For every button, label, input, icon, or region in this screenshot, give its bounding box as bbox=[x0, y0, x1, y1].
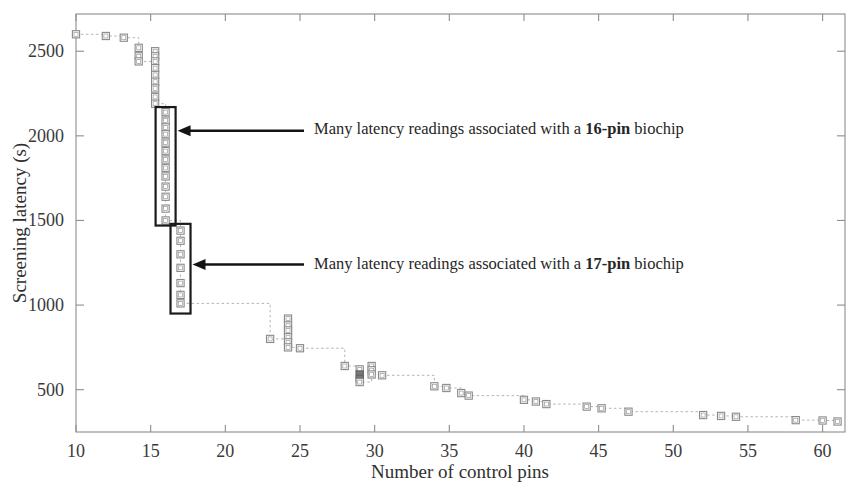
data-point bbox=[162, 109, 169, 116]
data-point bbox=[162, 173, 169, 180]
data-point bbox=[102, 32, 109, 39]
data-point bbox=[177, 237, 184, 244]
arrow-head-annot-16-pin bbox=[178, 125, 191, 136]
data-point bbox=[152, 71, 159, 78]
data-point bbox=[431, 383, 438, 390]
scatter-plot-svg: 1015202530354045505560 50010001500200025… bbox=[0, 0, 852, 489]
data-point bbox=[135, 44, 142, 51]
x-tick-label: 20 bbox=[216, 441, 234, 461]
data-point bbox=[162, 193, 169, 200]
x-tick-label: 50 bbox=[664, 441, 682, 461]
data-point bbox=[284, 327, 291, 334]
data-point bbox=[296, 345, 303, 352]
data-point bbox=[284, 344, 291, 351]
x-tick-label: 35 bbox=[440, 441, 458, 461]
data-point bbox=[341, 362, 348, 369]
y-axis-tick-labels: 5001000150020002500 bbox=[28, 41, 64, 399]
y-tick-label: 2000 bbox=[28, 126, 64, 146]
annotation-label-16-pin: Many latency readings associated with a … bbox=[314, 119, 684, 138]
x-tick-label: 25 bbox=[291, 441, 309, 461]
data-point bbox=[583, 403, 590, 410]
data-point bbox=[379, 372, 386, 379]
y-tick-label: 500 bbox=[37, 380, 64, 400]
data-point bbox=[177, 300, 184, 307]
data-point bbox=[458, 389, 465, 396]
annotation-arrows bbox=[178, 125, 304, 270]
data-point bbox=[732, 413, 739, 420]
data-point bbox=[162, 156, 169, 163]
data-point bbox=[443, 384, 450, 391]
x-tick-label: 45 bbox=[590, 441, 608, 461]
data-point bbox=[162, 117, 169, 124]
x-tick-label: 15 bbox=[142, 441, 160, 461]
data-point bbox=[152, 85, 159, 92]
data-point bbox=[120, 34, 127, 41]
data-point bbox=[177, 291, 184, 298]
data-point bbox=[177, 251, 184, 258]
data-point bbox=[819, 417, 826, 424]
x-tick-label: 40 bbox=[515, 441, 533, 461]
y-axis-title: Screening latency (s) bbox=[9, 143, 31, 303]
x-tick-label: 55 bbox=[739, 441, 757, 461]
data-point bbox=[162, 139, 169, 146]
data-point bbox=[465, 392, 472, 399]
y-tick-label: 1500 bbox=[28, 210, 64, 230]
data-point bbox=[152, 58, 159, 65]
data-point bbox=[717, 412, 724, 419]
data-point bbox=[284, 315, 291, 322]
data-point bbox=[177, 264, 184, 271]
annotation-label-17-pin: Many latency readings associated with a … bbox=[314, 254, 684, 273]
data-point bbox=[152, 93, 159, 100]
data-point bbox=[162, 217, 169, 224]
data-point bbox=[162, 124, 169, 131]
data-point bbox=[162, 205, 169, 212]
y-tick-label: 2500 bbox=[28, 41, 64, 61]
data-point bbox=[543, 400, 550, 407]
x-axis-tick-labels: 1015202530354045505560 bbox=[67, 441, 832, 461]
chart-figure: 1015202530354045505560 50010001500200025… bbox=[0, 0, 852, 489]
annotation-highlight-boxes bbox=[156, 107, 191, 313]
data-point bbox=[177, 279, 184, 286]
series-data-markers bbox=[72, 31, 841, 425]
data-point bbox=[368, 371, 375, 378]
data-point bbox=[162, 183, 169, 190]
data-point bbox=[162, 147, 169, 154]
y-axis-ticks bbox=[76, 51, 845, 389]
x-tick-label: 10 bbox=[67, 441, 85, 461]
x-axis-title: Number of control pins bbox=[371, 461, 549, 482]
data-point bbox=[625, 408, 632, 415]
data-point bbox=[177, 227, 184, 234]
data-point bbox=[834, 418, 841, 425]
x-tick-label: 30 bbox=[366, 441, 384, 461]
data-point bbox=[356, 378, 363, 385]
data-point bbox=[532, 398, 539, 405]
y-tick-label: 1000 bbox=[28, 295, 64, 315]
arrow-head-annot-17-pin bbox=[193, 259, 206, 270]
data-point bbox=[72, 31, 79, 38]
data-point bbox=[598, 405, 605, 412]
data-point bbox=[700, 411, 707, 418]
data-point bbox=[267, 335, 274, 342]
x-tick-label: 60 bbox=[814, 441, 832, 461]
data-point bbox=[162, 131, 169, 138]
data-point bbox=[520, 396, 527, 403]
data-point bbox=[152, 78, 159, 85]
data-point bbox=[162, 164, 169, 171]
data-point bbox=[135, 58, 142, 65]
data-point bbox=[792, 417, 799, 424]
data-point bbox=[152, 65, 159, 72]
